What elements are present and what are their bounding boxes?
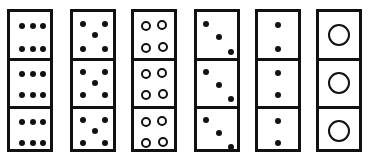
ring-icon [158,89,168,99]
filled-dot-icon [80,21,86,27]
ring-icon [157,116,167,126]
filled-dot-icon [275,92,281,98]
domino-strip-4 [194,9,240,152]
filled-dot-icon [275,22,281,28]
domino-cell [73,58,113,104]
filled-dot-icon [102,46,108,52]
domino-strip-6 [316,9,362,152]
ring-icon [141,43,151,53]
domino-strip-5 [255,9,301,152]
filled-dot-icon [19,71,25,77]
domino-cell [10,12,50,58]
domino-cell [258,106,298,152]
domino-strip-3 [131,9,177,152]
domino-cell [134,58,174,104]
filled-dot-icon [19,92,25,98]
filled-dot-icon [80,92,86,98]
filled-dot-icon [19,119,25,125]
ring-icon [158,137,168,147]
filled-dot-icon [40,23,46,29]
filled-dot-icon [216,130,222,136]
filled-dot-icon [216,34,222,40]
filled-dot-icon [92,80,98,86]
filled-dot-icon [40,46,46,52]
filled-dot-icon [30,92,36,98]
domino-cell [197,58,237,104]
filled-dot-icon [275,118,281,124]
filled-dot-icon [40,119,46,125]
filled-dot-icon [92,32,98,38]
domino-strip-2 [70,9,116,152]
domino-cell [319,12,359,58]
filled-dot-icon [275,140,281,146]
domino-cell [134,106,174,152]
ring-icon [141,117,151,127]
domino-cell [258,58,298,104]
filled-dot-icon [30,46,36,52]
filled-dot-icon [30,119,36,125]
filled-dot-icon [80,140,86,146]
ring-icon [158,42,168,52]
filled-dot-icon [203,21,209,27]
domino-cell [319,58,359,104]
filled-dot-icon [80,69,86,75]
ring-icon [141,90,151,100]
domino-cell [10,58,50,104]
domino-cell [10,106,50,152]
filled-dot-icon [80,117,86,123]
filled-dot-icon [30,23,36,29]
filled-dot-icon [40,71,46,77]
filled-dot-icon [19,140,25,146]
ring-icon [328,24,350,46]
filled-dot-icon [102,117,108,123]
filled-dot-icon [102,69,108,75]
filled-dot-icon [216,82,222,88]
ring-icon [141,138,151,148]
domino-cell [197,12,237,58]
filled-dot-icon [203,69,209,75]
domino-strip-1 [7,9,53,152]
domino-cell [73,106,113,152]
ring-icon [157,20,167,30]
filled-dot-icon [80,46,86,52]
domino-cell [319,106,359,152]
filled-dot-icon [19,23,25,29]
filled-dot-icon [40,92,46,98]
ring-icon [328,120,350,142]
ring-icon [141,21,151,31]
filled-dot-icon [102,21,108,27]
ring-icon [328,72,350,94]
filled-dot-icon [92,128,98,134]
filled-dot-icon [102,92,108,98]
ring-icon [157,68,167,78]
filled-dot-icon [228,144,234,150]
filled-dot-icon [275,46,281,52]
filled-dot-icon [102,140,108,146]
filled-dot-icon [40,140,46,146]
filled-dot-icon [19,46,25,52]
domino-cell [197,106,237,152]
ring-icon [141,69,151,79]
domino-cell [258,12,298,58]
domino-cell [134,12,174,58]
filled-dot-icon [30,71,36,77]
filled-dot-icon [228,96,234,102]
filled-dot-icon [30,140,36,146]
domino-cell [73,12,113,58]
filled-dot-icon [275,70,281,76]
filled-dot-icon [228,49,234,55]
filled-dot-icon [203,117,209,123]
